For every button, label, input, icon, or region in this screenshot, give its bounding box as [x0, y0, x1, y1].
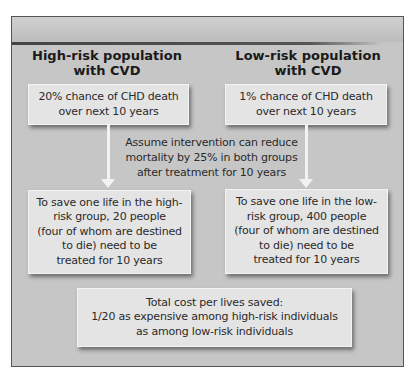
top-band	[12, 17, 403, 42]
assumption-text: Assume intervention can reduce mortality…	[124, 135, 299, 180]
box-high-risk-chance: 20% chance of CHD death over next 10 yea…	[28, 84, 189, 125]
box-low-risk-outcome: To save one life in the low- risk group,…	[225, 189, 388, 274]
arrow-right-shaft	[305, 125, 308, 180]
box-summary: Total cost per lives saved: 1/20 as expe…	[77, 288, 352, 347]
arrow-left-shaft	[107, 125, 110, 180]
header-rule	[12, 42, 384, 45]
heading-high-risk: High-risk population with CVD	[22, 48, 192, 78]
box-low-risk-chance: 1% chance of CHD death over next 10 year…	[225, 84, 387, 125]
arrow-down-right-icon	[299, 179, 313, 188]
arrow-down-left-icon	[101, 179, 115, 188]
heading-low-risk: Low-risk population with CVD	[223, 48, 393, 78]
diagram-frame: High-risk population with CVD Low-risk p…	[11, 16, 404, 367]
box-high-risk-outcome: To save one life in the high- risk group…	[28, 190, 191, 274]
